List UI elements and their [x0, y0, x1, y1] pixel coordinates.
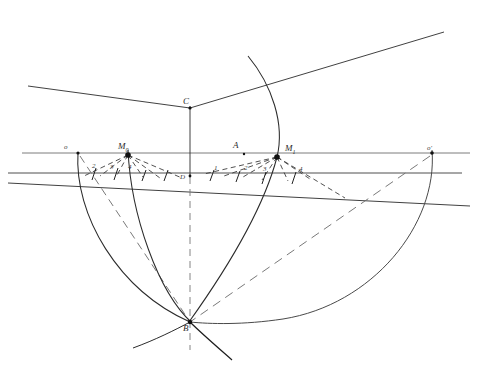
label-tick-4-left: 4 [128, 164, 132, 171]
construction-drawing [0, 0, 500, 375]
label-point-D: D [180, 174, 185, 181]
label-M0-subscript: 0 [126, 147, 129, 153]
point-D-dot [189, 175, 192, 178]
arc-through-M1-to-top [189, 56, 279, 322]
tick-mark-c [142, 170, 146, 181]
arc-oprime-to-B [190, 150, 432, 324]
label-point-M1: M1 [285, 144, 296, 155]
chord-oprime-to-B-dashed [190, 156, 430, 322]
arc-tail-below-B-left [133, 322, 190, 348]
label-point-M0: M0 [118, 142, 129, 153]
point-o-dot [76, 151, 79, 154]
ray-fan-M0 [84, 155, 182, 178]
label-tick-4-right: 4 [299, 166, 303, 173]
label-tick-2-left: 2 [92, 163, 96, 170]
ray-left-to-apex [28, 86, 190, 108]
point-C-dot [188, 106, 191, 109]
label-M1-base: M [285, 143, 293, 153]
label-point-o-prime: o' [427, 145, 432, 152]
point-M1-dot [274, 154, 280, 160]
geometric-diagram: o o' M0 M1 A C D B 2 3 4 1 2 3 4 [0, 0, 500, 375]
ray-apex-to-upper-right [190, 32, 444, 108]
oblique-baseline [8, 183, 470, 206]
apex-rays-at-C [28, 32, 444, 108]
tick-mark-g [262, 172, 266, 184]
label-point-C: C [183, 97, 189, 106]
point-M0-dot [125, 152, 131, 158]
label-point-o: o [64, 144, 68, 151]
label-tick-1-right: 1 [214, 165, 218, 172]
ray-fan-M1 [204, 157, 345, 198]
arc-tail-below-B-right [190, 322, 232, 360]
label-M1-subscript: 1 [293, 149, 296, 155]
M1-ray-5 [277, 157, 288, 181]
label-tick-3-right: 3 [263, 166, 267, 173]
M1-ray-7 [277, 157, 345, 198]
label-point-B: B [183, 324, 189, 333]
point-A-dot [243, 153, 245, 155]
M0-ray-3 [116, 155, 128, 177]
chord-o-to-B-dashed [80, 156, 190, 322]
label-tick-3-left: 3 [110, 164, 114, 171]
label-point-A: A [233, 141, 239, 150]
M0-ray-6 [128, 155, 182, 178]
tick-mark-d [164, 170, 168, 181]
label-M0-base: M [118, 141, 126, 151]
arc-family [78, 56, 433, 360]
label-tick-2-right: 2 [244, 165, 248, 172]
tick-mark-h [292, 172, 296, 184]
